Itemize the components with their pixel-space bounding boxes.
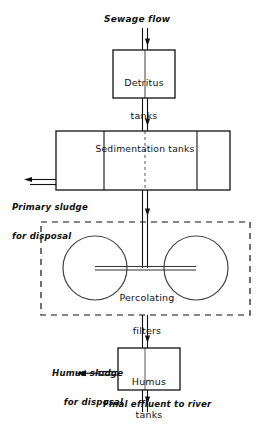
flow-sedimentation-to-filters: [143, 190, 151, 268]
arrowhead-left-primary-sludge: [24, 177, 32, 182]
flow-inflow: [143, 28, 151, 50]
label-detritus-tanks: Detritus tanks: [114, 56, 174, 143]
label-sedimentation-tanks: Sedimentation tanks: [95, 144, 195, 155]
label-percolating-filters: Percolating filters: [112, 271, 182, 358]
label-primary-sludge-line2: for disposal: [12, 232, 88, 242]
arrowhead-down-to-filters: [145, 209, 150, 217]
arrowhead-down-inflow: [145, 39, 150, 47]
label-humus-tanks: Humus tanks: [118, 355, 180, 425]
label-primary-sludge: Primary sludge for disposal: [12, 183, 88, 262]
label-final-effluent: Final effluent to river: [103, 400, 212, 410]
label-humus-tanks-line2: tanks: [118, 410, 180, 421]
label-detritus-tanks-line2: tanks: [114, 111, 174, 122]
label-percolating-filters-line1: Percolating: [112, 293, 182, 304]
label-humus-sludge-line1: Humus sludge: [52, 369, 123, 379]
label-primary-sludge-line1: Primary sludge: [12, 203, 88, 213]
sewage-treatment-flow-diagram: Sewage flow Detritus tanks Sedimentation…: [0, 0, 272, 425]
label-detritus-tanks-line1: Detritus: [114, 78, 174, 89]
label-humus-sludge: Humus sludge for disposal: [52, 349, 123, 425]
label-sewage-flow: Sewage flow: [104, 14, 170, 24]
label-humus-tanks-line1: Humus: [118, 377, 180, 388]
label-percolating-filters-line2: filters: [112, 326, 182, 337]
